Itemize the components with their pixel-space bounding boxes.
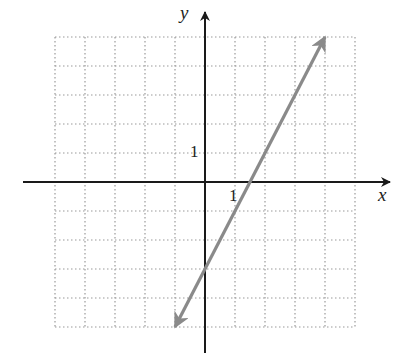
x-axis-label: x: [378, 184, 386, 206]
coordinate-plane: [0, 0, 393, 353]
y-axis-label: y: [180, 2, 188, 24]
y-tick-label: 1: [190, 142, 199, 162]
x-tick-label: 1: [229, 186, 238, 206]
